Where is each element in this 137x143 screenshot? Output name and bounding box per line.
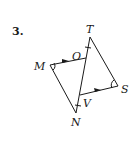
problem-number: 3. xyxy=(12,25,23,38)
label-T: T xyxy=(86,23,95,36)
label-S: S xyxy=(121,83,129,96)
label-O: O xyxy=(72,50,81,63)
segment-TS xyxy=(90,37,118,86)
label-N: N xyxy=(70,116,81,129)
parallel-arrow-VS xyxy=(94,88,101,92)
segment-MN xyxy=(50,65,76,113)
label-V: V xyxy=(83,97,92,110)
tick-mark-VN xyxy=(75,105,81,106)
tick-mark-TO xyxy=(85,47,91,48)
geometry-diagram: 3. T O M S V N xyxy=(0,0,137,143)
label-M: M xyxy=(33,60,46,73)
